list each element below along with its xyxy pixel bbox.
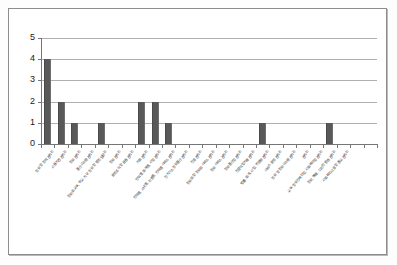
x-category-label-22: 사회복지시설 및 종교 관리자 [322,150,350,183]
x-category-label-13: 정보 서비스 관리자 [210,150,230,173]
x-category-label-16: 법률, 회계, 사업, 컨설팅 관리자 [239,150,270,186]
x-tick-2 [68,144,69,148]
bar-21 [326,123,333,144]
x-category-label-14: 정보통신업 관리자 [224,150,243,172]
y-axis-tick-labels: 012345 [9,9,41,256]
x-category-label-5: 정보 관리자 [109,150,123,165]
x-category-label-1: 사용기관 관리자 [51,150,68,170]
y-tick-label-3: 3 [21,75,35,84]
x-tick-18 [283,144,284,148]
bar-4 [98,123,105,144]
x-tick-16 [256,144,257,148]
x-tick-1 [54,144,55,148]
x-category-label-20: 교육 및 보건복지업, 사회복지업 관리자 [286,150,323,193]
bar-7 [138,102,145,144]
x-tick-25 [377,144,378,148]
bar-0 [44,59,51,144]
y-tick-label-1: 1 [21,118,35,127]
x-category-label-4: 정보화 교육, 학교 기구, 정보 및 행정 담당자 [67,150,109,199]
x-tick-9 [162,144,163,148]
x-category-label-15: 전문직업기술 관리자 [235,150,256,174]
bar-8 [152,102,159,144]
x-tick-6 [122,144,123,148]
x-tick-17 [269,144,270,148]
chart-page: 012345 정보 및 정책 관리자사용기관 관리자정보 관리자통신시스템 관리… [0,0,397,265]
x-tick-0 [41,144,42,148]
x-tick-24 [364,144,365,148]
x-tick-3 [81,144,82,148]
x-tick-15 [243,144,244,148]
x-tick-12 [202,144,203,148]
x-tick-10 [175,144,176,148]
bar-1 [58,102,65,144]
x-category-label-10: 전기가스 정보통신 관리자 [164,150,190,180]
scanned-page-frame: 012345 정보 및 정책 관리자사용기관 관리자정보 관리자통신시스템 관리… [8,8,387,255]
x-category-label-19: 관리자 [301,150,310,160]
x-category-label-21: 정보, 예술, 디자인 방송 관리자 [307,150,337,185]
x-tick-22 [337,144,338,148]
bar-16 [259,123,266,144]
x-tick-8 [149,144,150,148]
x-tick-13 [216,144,217,148]
x-category-label-3: 통신시스템 관리자 [76,150,95,172]
x-tick-4 [95,144,96,148]
x-tick-20 [310,144,311,148]
x-category-label-18: 정보 및 정보시스템 관리자 [270,150,296,180]
y-tick-label-5: 5 [21,33,35,42]
y-tick-label-2: 2 [21,97,35,106]
x-category-label-6: 운영조직 및 운용 관리자 [111,150,135,178]
x-category-label-8: 인력별, 회계별, 사업 관리자 [135,150,163,182]
x-tick-19 [296,144,297,148]
bar-2 [71,123,78,144]
x-category-label-9: 인력별, 사내별, 자원별, 인력별 서비스 관리자 [133,150,176,200]
bar-9 [165,123,172,144]
y-tick-label-4: 4 [21,54,35,63]
x-axis-line [41,144,377,145]
x-tick-14 [229,144,230,148]
y-tick-label-0: 0 [21,139,35,148]
bar-series [41,38,377,144]
x-tick-23 [350,144,351,148]
x-tick-7 [135,144,136,148]
x-tick-21 [323,144,324,148]
x-category-label-11: 건설 관리자 [189,150,203,165]
x-category-label-7: 기획 관리자 [136,150,150,165]
x-tick-5 [108,144,109,148]
x-category-label-2: 정보 관리자 [68,150,82,165]
x-tick-11 [189,144,190,148]
x-category-label-12: 정보화 및 정보화 서비스 관리자 [185,150,216,186]
x-category-label-17: 서비스 운영 관리자 [263,150,283,173]
